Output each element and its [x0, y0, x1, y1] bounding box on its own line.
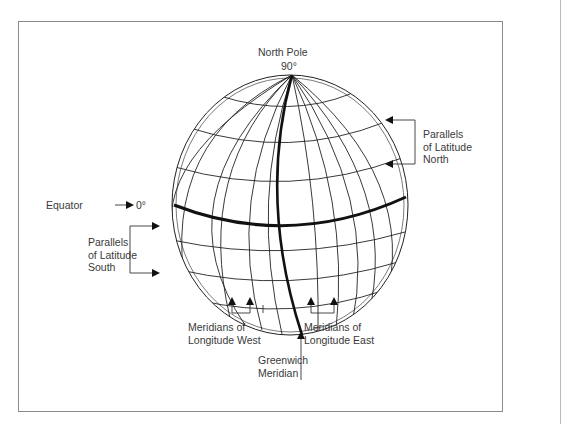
equator-degree: 0°	[136, 199, 146, 212]
equator-label: Equator	[46, 199, 83, 212]
north-pole-label: North Pole	[258, 46, 308, 59]
meridians-east-label: Meridians of Longitude East	[304, 321, 374, 346]
arrowheads	[126, 116, 393, 339]
greenwich-label: Greenwich Meridian	[258, 354, 308, 379]
parallels-north-label: Parallels of Latitude North	[423, 128, 472, 166]
equator-line	[174, 197, 406, 226]
north-pole-degree: 90°	[281, 60, 297, 73]
parallel-south-40	[180, 262, 398, 281]
parallel-north-50	[190, 122, 385, 143]
meridians-west-label: Meridians of Longitude West	[188, 321, 261, 346]
parallels-south-label: Parallels of Latitude South	[88, 236, 137, 274]
parallel-south-20	[172, 232, 405, 251]
